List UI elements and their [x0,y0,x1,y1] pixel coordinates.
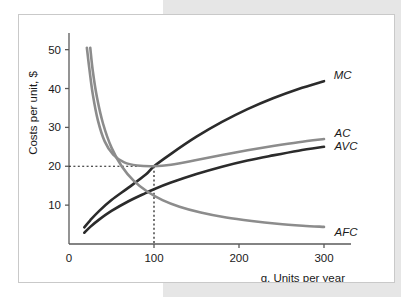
cost-curves-chart: 10203040500100200300q, Units per yearCos… [19,15,394,282]
curve-label-ac: AC [334,127,352,139]
x-axis-tick-label: 300 [314,252,333,264]
chart-figure-card: 10203040500100200300q, Units per yearCos… [18,14,395,283]
y-axis-tick-label: 50 [48,44,61,56]
curve-label-mc: MC [334,69,353,81]
y-axis-tick-label: 20 [48,160,61,172]
y-axis-title: Costs per unit, $ [27,71,39,155]
curve-label-avc: AVC [334,140,359,152]
x-axis-tick-label: 100 [144,252,163,264]
y-axis-tick-label: 40 [48,83,61,95]
y-axis-tick-label: 10 [48,199,61,211]
curve-afc [90,48,324,227]
x-axis-title: q, Units per year [261,272,346,282]
curve-ac [87,48,324,167]
x-axis-tick-label: 200 [229,252,248,264]
figure-root: 10203040500100200300q, Units per yearCos… [0,0,401,303]
y-axis-tick-label: 30 [48,121,61,133]
x-axis-tick-label: 0 [66,252,72,264]
curve-label-afc: AFC [334,226,359,238]
